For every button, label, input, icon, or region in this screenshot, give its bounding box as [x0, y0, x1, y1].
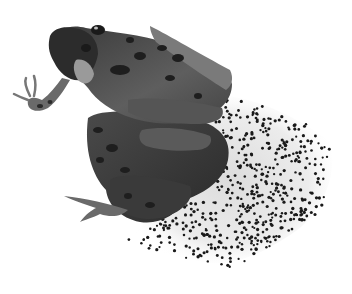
frog-photo: Grayscale photo of a mating pair of frog…: [0, 0, 352, 294]
frogs-and-spawn-illustration: [0, 0, 352, 294]
top-frog: [14, 25, 232, 124]
